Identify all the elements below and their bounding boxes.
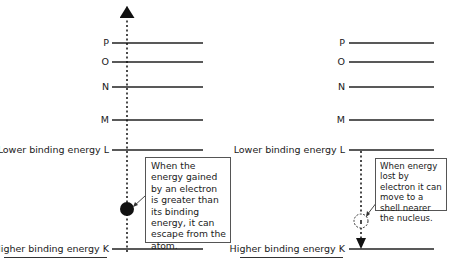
left-callout-box: When the energy gained by an electron is… bbox=[145, 157, 231, 243]
right-label-k: Higher binding energy K bbox=[230, 244, 345, 254]
left-label-m: M bbox=[101, 115, 109, 125]
right-label-n: N bbox=[338, 82, 345, 92]
right-label-l: Lower binding energy L bbox=[234, 145, 345, 155]
right-label-m: M bbox=[337, 115, 345, 125]
left-label-p: P bbox=[103, 38, 109, 48]
left-k-underline bbox=[4, 257, 107, 258]
left-label-n: N bbox=[102, 82, 109, 92]
right-label-p: P bbox=[339, 38, 345, 48]
left-label-k: Higher binding energy K bbox=[0, 244, 109, 254]
right-k-underline bbox=[240, 257, 343, 258]
electron-filled-icon bbox=[120, 202, 134, 216]
left-label-o: O bbox=[102, 57, 109, 67]
left-label-l: Lower binding energy L bbox=[0, 145, 109, 155]
up-arrow-icon bbox=[122, 6, 132, 18]
down-arrow-icon bbox=[356, 238, 366, 249]
right-label-o: O bbox=[338, 57, 345, 67]
right-callout-box: When energy lost by electron it can move… bbox=[375, 158, 447, 211]
